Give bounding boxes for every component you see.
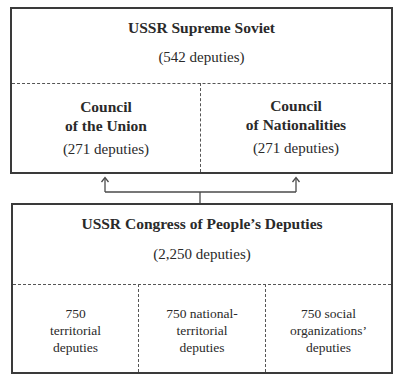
territorial-deputies-group: 750 territorial deputies	[13, 306, 138, 357]
congress-divider-horizontal	[13, 284, 391, 285]
national-territorial-line1: 750 national-	[139, 306, 265, 323]
territorial-line3: deputies	[13, 340, 138, 357]
social-organizations-line2: organizations’	[266, 323, 391, 340]
social-organizations-line3: deputies	[266, 340, 391, 357]
congress-title: USSR Congress of People’s Deputies	[11, 215, 393, 234]
congress-count: (2,250 deputies)	[11, 245, 393, 263]
national-territorial-deputies-group: 750 national- territorial deputies	[139, 306, 265, 357]
national-territorial-line2: territorial	[139, 323, 265, 340]
social-organizations-deputies-group: 750 social organizations’ deputies	[266, 306, 391, 357]
territorial-line2: territorial	[13, 323, 138, 340]
territorial-line1: 750	[13, 306, 138, 323]
national-territorial-line3: deputies	[139, 340, 265, 357]
social-organizations-line1: 750 social	[266, 306, 391, 323]
